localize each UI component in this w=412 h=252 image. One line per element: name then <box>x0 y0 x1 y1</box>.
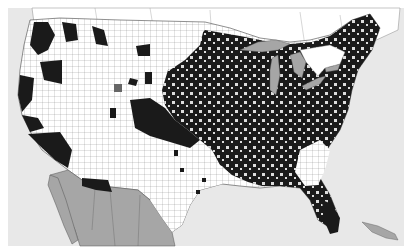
filled-tx-county <box>202 178 206 182</box>
left-margin <box>0 0 8 252</box>
filled-utah-county <box>110 108 116 118</box>
filled-tx-county <box>180 168 184 172</box>
filled-tx-county <box>174 150 178 156</box>
right-margin <box>404 0 412 252</box>
filled-tx-county <box>196 190 200 194</box>
filled-nebraska-block <box>145 72 152 84</box>
filled-montana-block <box>136 44 150 56</box>
bottom-margin <box>0 246 412 252</box>
top-margin <box>0 0 412 8</box>
county-map <box>0 0 412 252</box>
filled-colorado-county <box>114 84 122 92</box>
